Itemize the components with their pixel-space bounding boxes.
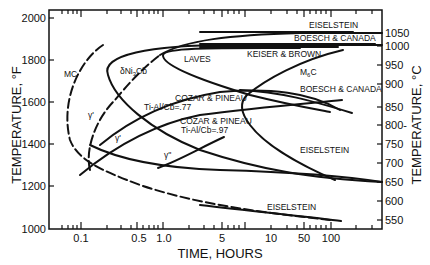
y-axis-title: TEMPERATURE, °F (9, 66, 24, 184)
y-tick-1200: 1200 (22, 180, 46, 192)
y-right-tick-550: 550 (385, 214, 403, 226)
y-right-tick-1050: 1050 (385, 27, 409, 39)
label-m6c: M6C (300, 67, 317, 78)
ttt-diagram: 2000 1800 1600 1400 1200 1000 TEMPERATUR… (0, 0, 430, 265)
label-gamma-prime-2: γ' (115, 133, 121, 143)
label-laves: LAVES (184, 54, 211, 64)
curve-m6c (242, 50, 343, 180)
label-eiselstein-mid: EISELSTEIN (300, 145, 349, 155)
y-right-tick-1000: 1000 (385, 40, 409, 52)
y-tick-2000: 2000 (22, 12, 46, 24)
y-tick-1600: 1600 (22, 96, 46, 108)
y-right-tick-700: 700 (385, 157, 403, 169)
x-axis-title: TIME, HOURS (177, 246, 263, 261)
label-boesch-top: BOESCH & CANADA (294, 33, 376, 43)
label-boesch-mid: BOESCH & CANADA (300, 84, 382, 94)
label-eiselstein-low: EISELSTEIN (267, 202, 316, 212)
x-tick-0.5: 0.5 (131, 232, 146, 244)
label-cozar-77-ratio: Ti-Al/Cb=.77 (144, 102, 191, 112)
label-eiselstein-top: EISELSTEIN (309, 20, 358, 30)
y-right-tick-950: 950 (385, 59, 403, 71)
label-delta-ni3cb: δNi3Cb (120, 66, 147, 77)
label-mc: MC (64, 69, 77, 79)
y-tick-1000: 1000 (22, 223, 46, 235)
label-keiser-brown: KEISER & BROWN (247, 49, 321, 59)
x-tick-5: 5 (219, 232, 225, 244)
label-cozar-97-ratio: Ti-Al/Cb=.97 (181, 125, 228, 135)
x-axis-labels: 0.1 0.5 1.0 5 10 50 100 (73, 232, 340, 244)
x-tick-1.0: 1.0 (156, 232, 171, 244)
y-tick-1400: 1400 (22, 138, 46, 150)
y-right-tick-750: 750 (385, 138, 403, 150)
x-tick-0.1: 0.1 (73, 232, 88, 244)
label-gamma-double-prime: γ'' (164, 150, 172, 160)
x-tick-10: 10 (265, 232, 277, 244)
y-right-axis-title: TEMPERATURE, °C (409, 65, 424, 184)
x-tick-50: 50 (298, 232, 310, 244)
label-gamma-prime-1: γ' (88, 110, 94, 120)
y-right-tick-800: 800- (385, 119, 407, 131)
y-right-tick-850: 850 (385, 101, 403, 113)
y-tick-1800: 1800 (22, 54, 46, 66)
y-right-tick-600: 600 (385, 195, 403, 207)
x-tick-100: 100 (322, 232, 340, 244)
y-right-tick-900: 900 (385, 78, 403, 90)
y-right-tick-650: 650 (385, 176, 403, 188)
